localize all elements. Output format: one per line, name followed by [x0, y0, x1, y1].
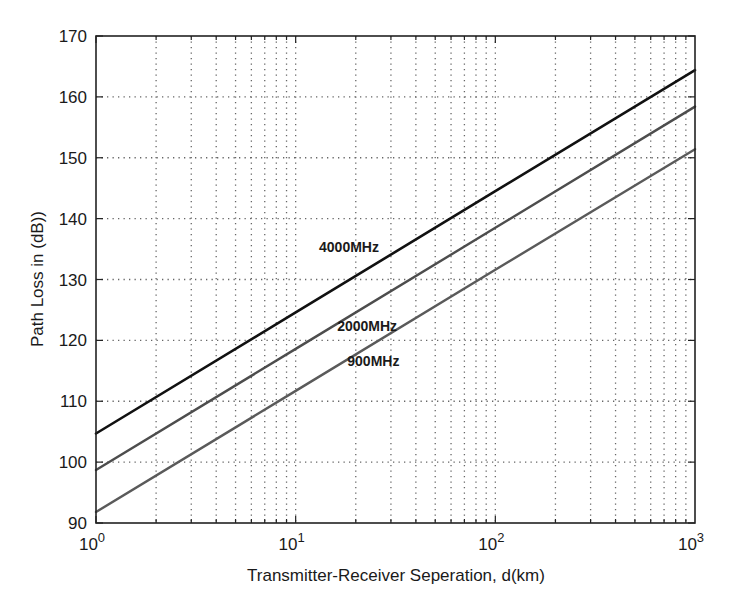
y-axis-title: Path Loss in (dB)) — [28, 211, 47, 347]
y-tick-label: 90 — [68, 514, 87, 533]
y-tick-label: 120 — [59, 331, 87, 350]
y-tick-label: 160 — [59, 88, 87, 107]
axis-ticks — [96, 36, 695, 523]
x-tick-label: 103 — [678, 530, 704, 554]
y-tick-label: 170 — [59, 27, 87, 46]
x-tick-label: 102 — [478, 530, 504, 554]
y-tick-label: 110 — [60, 392, 87, 411]
y-tick-label: 150 — [59, 149, 87, 168]
y-tick-label: 130 — [59, 271, 87, 290]
x-axis-title: Transmitter-Receiver Seperation, d(km) — [247, 566, 545, 585]
x-tick-label: 100 — [79, 530, 105, 554]
x-tick-label: 101 — [279, 530, 305, 554]
y-tick-label: 100 — [59, 453, 87, 472]
series-labels: 4000MHz2000MHz900MHz — [319, 239, 399, 369]
series-lines — [96, 70, 695, 512]
series-line-2000mhz — [96, 107, 695, 470]
y-tick-labels: 90100110120130140150160170 — [59, 27, 87, 533]
x-tick-labels: 100101102103 — [79, 530, 704, 554]
grid-lines — [96, 36, 695, 523]
series-label-2000mhz: 2000MHz — [337, 318, 397, 334]
series-line-4000mhz — [96, 70, 695, 433]
series-label-4000mhz: 4000MHz — [319, 239, 379, 255]
path-loss-chart: 90100110120130140150160170 100101102103 … — [0, 0, 737, 609]
series-label-900mhz: 900MHz — [347, 353, 399, 369]
y-tick-label: 140 — [59, 210, 87, 229]
plot-frame — [96, 36, 695, 523]
